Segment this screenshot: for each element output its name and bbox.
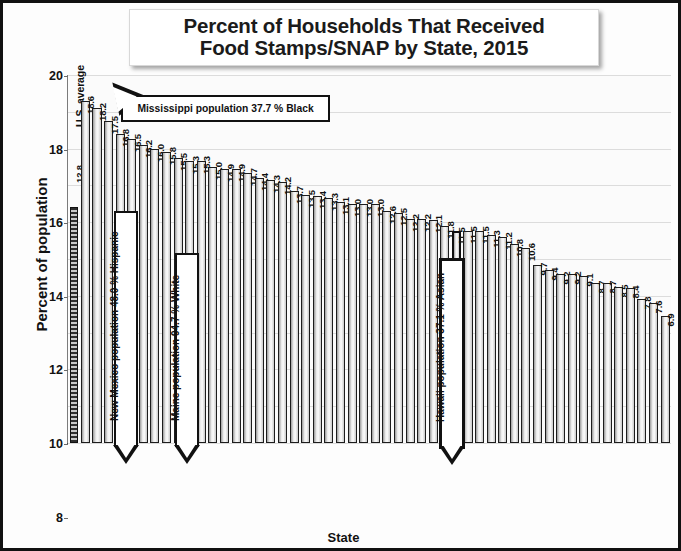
annotation-mississippi-text: Mississippi population 37.7 % Black [137,103,313,114]
bar-new-jersey[interactable]: 9.4 [545,270,554,443]
annotation-mississippi: Mississippi population 37.7 % Black [121,95,330,122]
bar-slot: 12.2 [404,75,416,443]
x-axis-tick-labels [67,445,670,529]
bar-louisiana[interactable]: 14.9 [232,169,241,443]
annotation-new-mexico: New Mexico population 48.0 % Hispanic [114,211,138,447]
y-axis-tick-label: 12 [49,363,63,377]
bar-slot: 14.4 [254,75,266,443]
bar-michigan[interactable]: 15.0 [208,167,217,443]
bar-nevada[interactable]: 13.1 [336,202,345,443]
bar-slot: 8.7 [590,75,602,443]
bar-slot: 13.7 [288,75,300,443]
bar-minnesota[interactable]: 9.1 [579,276,588,443]
bar-arkansas[interactable]: 13.7 [290,191,299,443]
bar-ohio[interactable]: 14.3 [266,180,275,443]
bar-slot: 14.2 [277,75,289,443]
bar-south-carolina[interactable]: 14.4 [255,178,264,443]
y-axis-tick-label: 10 [49,437,63,451]
bar-massachusetts[interactable]: 12.2 [406,219,415,443]
bar-rhode-island[interactable]: 16.2 [139,145,148,443]
plot-area: 02468101214161820 12.8U.S. average18.618… [67,75,671,444]
bar-california[interactable]: 9.7 [533,265,542,443]
bar-slot: 12.6 [381,75,393,443]
maine-arrowhead-inner [178,444,196,458]
chart-title-line1: Percent of Households That Received [134,15,594,37]
annotation-new-mexico-text: New Mexico population 48.0 % Hispanic [109,232,120,422]
bar-slot: 13.4 [311,75,323,443]
bar-wisconsin[interactable]: 12.2 [417,219,426,443]
chart-frame: Percent of Households That Received Food… [0,0,681,551]
bar-virginia[interactable]: 9.2 [556,274,565,443]
bar-slot: 18.6 [80,75,92,443]
y-axis-tick-label: 20 [49,69,63,83]
bar-slot: 9.7 [532,75,544,443]
bar-slot: 14.7 [242,75,254,443]
annotation-maine-textwrap: Maine population 94.7 % White [177,255,197,421]
new-mexico-arrowhead-inner [117,444,135,458]
hawaii-arrowhead-inner [443,445,461,459]
bar-slot: 13.0 [369,75,381,443]
bar-slot: 10.8 [509,75,521,443]
bar-slot: 16.2 [138,75,150,443]
bar-north-carolina[interactable]: 14.2 [278,182,287,443]
annotation-hawaii-textwrap: Hawaii population 37.1 % Asian [442,261,462,422]
bar-georgia[interactable]: 14.7 [243,173,252,443]
bar-maryland[interactable]: 11.2 [498,237,507,443]
bar-texas[interactable]: 12.5 [394,213,403,443]
bar-tennessee[interactable]: 16.0 [150,149,159,443]
bar-arizona[interactable]: 13.0 [348,204,357,443]
bar-utah[interactable]: 7.8 [637,299,646,443]
bar-iowa[interactable]: 11.3 [487,235,496,443]
bar-slot: 13.1 [335,75,347,443]
bar-slot: 8.4 [625,75,637,443]
bar-slot: 7.6 [648,75,660,443]
bar-oregon[interactable]: 18.6 [81,101,90,443]
bar-slot: 9.2 [555,75,567,443]
bar-slot: 14.3 [265,75,277,443]
bar-new-hampshire[interactable]: 8.4 [626,288,635,443]
bar-kansas[interactable]: 8.7 [603,283,612,443]
chart-title: Percent of Households That Received Food… [129,9,599,66]
y-axis-tick-label: 8 [56,511,63,525]
bar-series: 12.8U.S. average18.618.217.516.816.516.2… [68,75,671,443]
bar-north-dakota[interactable]: 7.6 [649,303,658,443]
bar-slot: 16.0 [149,75,161,443]
bar-indiana[interactable]: 11.5 [475,231,484,443]
annotation-hawaii-text: Hawaii population 37.1 % Asian [435,273,446,422]
bar-alaska[interactable]: 10.8 [510,244,519,443]
bar-slot: 13.0 [346,75,358,443]
y-axis-tick-label: 16 [49,216,63,230]
bar-pennsylvania[interactable]: 13.3 [324,198,333,443]
bar-slot: 12.5 [393,75,405,443]
bar-slot: 13.3 [323,75,335,443]
annotation-new-mexico-textwrap: New Mexico population 48.0 % Hispanic [116,213,136,421]
bar-mississippi[interactable]: 18.2 [92,108,101,443]
bar-slot: 18.2 [91,75,103,443]
bar-united-states[interactable]: 12.8U.S. average [70,207,78,443]
bar-slot: 9.4 [543,75,555,443]
bar-montana[interactable]: 9.2 [568,274,577,443]
bar-slot: 11.3 [485,75,497,443]
bar-florida[interactable]: 14.9 [220,169,229,443]
annotation-maine: Maine population 94.7 % White [175,253,199,447]
bar-delaware[interactable]: 13.0 [359,204,368,443]
y-axis-tick-label: 14 [49,290,63,304]
bar-slot: 14.9 [230,75,242,443]
bar-slot: 9.2 [567,75,579,443]
bar-connecticut[interactable]: 12.6 [382,211,391,443]
bar-illinois[interactable]: 13.5 [301,195,310,443]
bar-colorado[interactable]: 8.5 [614,287,623,443]
bar-slot: 10.6 [520,75,532,443]
bar-wyoming[interactable]: 6.9 [661,316,670,443]
x-axis-label: State [3,530,681,545]
bar-oklahoma[interactable]: 13.0 [371,204,380,443]
bar-nebraska[interactable]: 8.7 [591,283,600,443]
bar-slot: 8.7 [601,75,613,443]
bar-washington[interactable]: 13.4 [313,196,322,443]
bar-south-dakota[interactable]: 10.6 [521,248,530,443]
annotation-maine-text: Maine population 94.7 % White [170,275,181,421]
bar-slot: 8.5 [613,75,625,443]
bar-slot: 11.5 [474,75,486,443]
bar-slot: 6.9 [659,75,671,443]
bar-slot: 7.8 [636,75,648,443]
